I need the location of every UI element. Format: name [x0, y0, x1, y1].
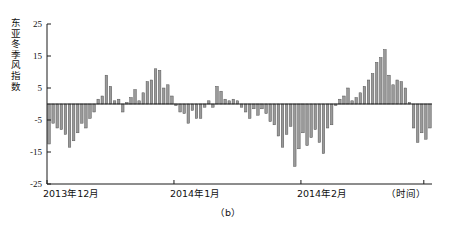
bar [89, 104, 92, 118]
bar [76, 104, 79, 133]
bar [122, 104, 125, 112]
bar [347, 88, 350, 104]
bar [310, 104, 313, 138]
x-axis-ticks: 2013年12月2014年1月2014年2月（时间） [43, 180, 426, 199]
bar [392, 85, 395, 104]
y-tick-label: -25 [30, 179, 42, 189]
bar [375, 62, 378, 104]
bar [273, 104, 276, 125]
bar [72, 104, 75, 141]
bar [154, 69, 157, 104]
bar [404, 88, 407, 104]
bar [314, 104, 317, 130]
bar [105, 75, 108, 104]
bar [371, 74, 374, 104]
x-tick-label: 2013年12月 [43, 188, 99, 199]
bar [220, 91, 223, 104]
bar [420, 104, 423, 133]
x-tick-label: 2014年2月 [297, 188, 347, 199]
bar [134, 90, 137, 104]
y-tick-label: 25 [33, 19, 43, 29]
bar [306, 104, 309, 146]
y-tick-label: -15 [30, 147, 42, 157]
bar [224, 99, 227, 104]
bar [52, 104, 55, 123]
axes-group [47, 24, 432, 184]
bar [93, 104, 96, 112]
bar [322, 104, 325, 154]
bar [388, 75, 391, 104]
bar [171, 96, 174, 104]
bar [339, 99, 342, 104]
y-axis-label-char: 东 [8, 18, 24, 29]
bar [187, 104, 190, 123]
bar [380, 58, 383, 104]
bar [48, 104, 51, 144]
bar [367, 80, 370, 104]
y-tick-label: 15 [33, 51, 43, 61]
bar [56, 104, 59, 128]
bar [109, 86, 112, 104]
bar [343, 96, 346, 104]
y-tick-label: 5 [38, 83, 43, 93]
bar-chart: 25155-5-15-25 2013年12月2014年1月2014年2月（时间） [0, 0, 456, 200]
x-tick-label: （时间） [386, 188, 426, 199]
bar [294, 104, 297, 166]
bar [183, 104, 186, 114]
bar [68, 104, 71, 147]
bar [285, 104, 288, 134]
bar [412, 104, 415, 128]
bar [326, 104, 329, 128]
bar [167, 85, 170, 104]
bar [85, 104, 88, 128]
bar [355, 98, 358, 104]
bar [146, 82, 149, 104]
y-axis-label-char: 指 [8, 71, 24, 82]
bar [232, 99, 235, 104]
bar [277, 104, 280, 136]
bar [281, 104, 284, 147]
bar [257, 104, 260, 115]
bar [363, 86, 366, 104]
bar [302, 104, 305, 133]
bar [97, 99, 100, 104]
bar [216, 86, 219, 104]
bar [158, 70, 161, 104]
bar [117, 99, 120, 104]
bar [261, 104, 264, 109]
bar [101, 96, 104, 104]
bar [265, 104, 268, 114]
bar [130, 98, 133, 104]
y-axis-label-char: 数 [8, 82, 24, 93]
bar [64, 104, 67, 134]
bar [269, 104, 272, 122]
bar [195, 104, 198, 118]
bar [253, 104, 256, 109]
bars-group [48, 50, 431, 167]
y-axis-label: 东 亚 冬 季 风 指 数 [8, 18, 24, 92]
bar [416, 104, 419, 142]
figure-caption: （b） [0, 205, 456, 219]
bar [384, 50, 387, 104]
bar [396, 80, 399, 104]
bar [298, 104, 301, 149]
bar [318, 104, 321, 142]
bar [179, 104, 182, 112]
bar [330, 104, 333, 125]
figure-panel-b: 东 亚 冬 季 风 指 数 25155-5-15-25 2013年12月2014… [0, 0, 456, 227]
bar [150, 80, 153, 104]
bar [191, 104, 194, 110]
y-tick-label: -5 [35, 115, 43, 125]
bar [289, 104, 292, 126]
bar [425, 104, 428, 139]
bar [81, 104, 84, 123]
bar [359, 93, 362, 104]
bar [244, 104, 247, 112]
bar [142, 93, 145, 104]
bar [60, 104, 63, 130]
bar [199, 104, 202, 118]
bar [248, 104, 251, 118]
bar [162, 88, 165, 104]
x-tick-label: 2014年1月 [170, 188, 220, 199]
bar [400, 82, 403, 104]
